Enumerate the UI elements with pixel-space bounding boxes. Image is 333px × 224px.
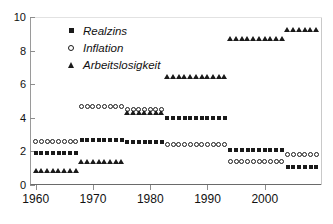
data-point-inflation <box>45 139 50 144</box>
legend-item-realzins: Realzins <box>63 22 160 39</box>
legend-label: Arbeitslosigkeit <box>79 59 160 71</box>
data-point-realzins <box>160 140 164 144</box>
data-point-inflation <box>39 139 44 144</box>
data-point-inflation <box>234 159 239 164</box>
data-point-inflation <box>188 142 193 147</box>
data-point-inflation <box>297 152 302 157</box>
x-axis-label: 1970 <box>71 192 115 206</box>
data-point-realzins <box>131 140 135 144</box>
data-point-realzins <box>57 151 61 155</box>
data-point-realzins <box>280 148 284 152</box>
y-axis-label: 10 <box>2 12 26 22</box>
data-point-realzins <box>177 116 181 120</box>
data-point-inflation <box>68 139 73 144</box>
data-point-realzins <box>114 138 118 142</box>
x-axis-tick <box>150 185 151 190</box>
data-point-arbeitslosigkeit <box>279 36 285 41</box>
data-point-realzins <box>205 116 209 120</box>
data-point-realzins <box>211 116 215 120</box>
data-point-realzins <box>268 148 272 152</box>
data-point-realzins <box>240 148 244 152</box>
x-axis-tick <box>207 185 208 190</box>
data-point-realzins <box>251 148 255 152</box>
data-point-realzins <box>188 116 192 120</box>
data-point-inflation <box>85 104 90 109</box>
data-point-realzins <box>223 116 227 120</box>
data-point-inflation <box>211 142 216 147</box>
x-axis-tick <box>265 185 266 190</box>
y-axis-tick <box>30 118 35 119</box>
data-point-realzins <box>183 116 187 120</box>
y-axis-label: 6 <box>2 79 26 89</box>
data-point-realzins <box>171 116 175 120</box>
data-point-realzins <box>165 116 169 120</box>
data-point-realzins <box>286 165 290 169</box>
legend-label: Inflation <box>79 42 123 54</box>
data-point-realzins <box>297 165 301 169</box>
legend-item-inflation: Inflation <box>63 39 160 56</box>
data-point-inflation <box>194 142 199 147</box>
data-point-realzins <box>200 116 204 120</box>
data-point-realzins <box>303 165 307 169</box>
data-point-inflation <box>96 104 101 109</box>
square-marker-icon <box>63 28 79 33</box>
data-point-inflation <box>274 159 279 164</box>
data-point-realzins <box>246 148 250 152</box>
data-point-inflation <box>257 159 262 164</box>
data-point-realzins <box>257 148 261 152</box>
data-point-realzins <box>68 151 72 155</box>
data-point-realzins <box>154 140 158 144</box>
legend-item-arbeitslosigkeit: Arbeitslosigkeit <box>63 56 160 73</box>
data-point-realzins <box>274 148 278 152</box>
data-point-realzins <box>125 140 129 144</box>
data-point-arbeitslosigkeit <box>73 168 79 173</box>
x-axis-tick <box>36 185 37 190</box>
x-axis-label: 1990 <box>185 192 229 206</box>
data-point-realzins <box>309 165 313 169</box>
data-point-inflation <box>102 104 107 109</box>
data-point-realzins <box>314 165 318 169</box>
data-point-arbeitslosigkeit <box>221 74 227 79</box>
data-point-inflation <box>228 159 233 164</box>
data-point-inflation <box>119 104 124 109</box>
data-point-realzins <box>74 151 78 155</box>
circle-marker-icon <box>63 45 79 51</box>
data-point-realzins <box>137 140 141 144</box>
data-point-inflation <box>245 159 250 164</box>
data-point-inflation <box>79 104 84 109</box>
x-axis-label: 1980 <box>128 192 172 206</box>
data-point-realzins <box>97 138 101 142</box>
y-axis-tick <box>30 185 35 186</box>
x-axis-tick <box>93 185 94 190</box>
data-point-realzins <box>51 151 55 155</box>
data-point-realzins <box>120 138 124 142</box>
data-point-arbeitslosigkeit <box>313 27 319 32</box>
y-axis-tick <box>30 84 35 85</box>
data-point-realzins <box>148 140 152 144</box>
data-point-realzins <box>143 140 147 144</box>
y-axis-label: 2 <box>2 146 26 156</box>
data-point-inflation <box>62 139 67 144</box>
plot-frame-right-edge <box>321 17 322 185</box>
data-point-realzins <box>108 138 112 142</box>
y-axis-tick <box>30 51 35 52</box>
y-axis-label: 0 <box>2 180 26 190</box>
data-point-realzins <box>62 151 66 155</box>
data-point-realzins <box>263 148 267 152</box>
data-point-realzins <box>85 138 89 142</box>
x-axis-label: 1960 <box>14 192 58 206</box>
data-point-inflation <box>171 142 176 147</box>
x-axis-label: 2000 <box>243 192 287 206</box>
data-point-realzins <box>102 138 106 142</box>
data-point-realzins <box>217 116 221 120</box>
data-point-realzins <box>291 165 295 169</box>
data-point-realzins <box>234 148 238 152</box>
data-point-inflation <box>268 159 273 164</box>
data-point-realzins <box>91 138 95 142</box>
data-point-inflation <box>108 104 113 109</box>
plot-frame-top-edge <box>30 17 322 18</box>
chart-legend: Realzins Inflation Arbeitslosigkeit <box>63 22 160 73</box>
data-point-inflation <box>251 159 256 164</box>
data-point-realzins <box>80 138 84 142</box>
data-point-realzins <box>228 148 232 152</box>
